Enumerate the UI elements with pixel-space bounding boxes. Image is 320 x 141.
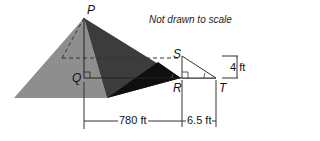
label-T: T <box>219 82 226 94</box>
dim-label-RT: 6.5 ft <box>187 115 211 126</box>
label-R: R <box>173 82 182 94</box>
triangle-SRT <box>182 56 216 78</box>
label-P: P <box>87 4 95 16</box>
label-S: S <box>173 48 181 60</box>
dim-label-QR: 780 ft <box>119 115 147 126</box>
not-to-scale-note: Not drawn to scale <box>149 15 232 25</box>
label-Q: Q <box>72 72 81 84</box>
dim-label-ST: 4 ft <box>230 62 245 73</box>
